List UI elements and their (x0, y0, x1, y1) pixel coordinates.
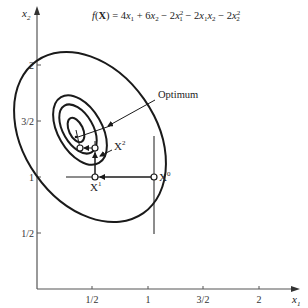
contour-3 (42, 86, 118, 174)
optimum-point (75, 136, 78, 139)
objective-function-equation: f(X) = 4x1 + 6x2 − 2x21 − 2x1x2 − 2x22 (92, 9, 241, 23)
optimum-leader-line (108, 100, 155, 126)
point-x2 (92, 145, 98, 151)
x2-label: X2 (114, 139, 126, 152)
x-tick-label: 3/2 (197, 294, 210, 305)
contour-lines (0, 23, 197, 251)
x0-label: X0 (159, 170, 171, 183)
y-axis-arrow-icon (34, 6, 40, 15)
optimization-contour-diagram: 1/2 1 3/2 2 1/2 1 3/2 2 x2 x1 f(X) = 4x1… (0, 0, 308, 308)
y-tick-label: 3/2 (21, 116, 34, 127)
point-x3 (77, 145, 83, 151)
y-axis-label: x2 (21, 7, 31, 22)
point-x0 (151, 174, 157, 180)
x-tick-label: 1 (146, 294, 151, 305)
x1-label: X1 (90, 180, 102, 193)
y-tick-label: 1/2 (21, 228, 34, 239)
contour-outer (0, 23, 197, 251)
x-axis-label: x1 (291, 293, 300, 308)
optimum-label: Optimum (158, 89, 198, 100)
x-tick-label: 2 (257, 294, 262, 305)
axes (34, 6, 300, 292)
x-axis-arrow-icon (291, 286, 300, 292)
y-tick-label: 1 (29, 172, 34, 183)
x-tick-label: 1/2 (86, 294, 99, 305)
